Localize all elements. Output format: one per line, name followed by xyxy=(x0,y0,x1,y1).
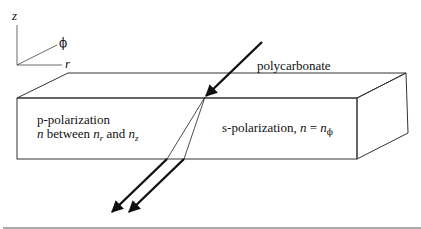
material-label: polycarbonate xyxy=(257,59,331,73)
s-polarization-prefix: s-polarization, xyxy=(222,120,300,135)
phi-axis-label: ϕ xyxy=(59,36,67,50)
equals-sign: = xyxy=(306,120,320,135)
r-axis-label: r xyxy=(65,57,70,71)
s-refracted-beam xyxy=(184,97,205,159)
phi-subscript: ϕ xyxy=(327,127,333,137)
incident-beam-arrow xyxy=(206,42,262,96)
p-refracted-beam xyxy=(167,97,205,159)
p-polarization-index: n between nr and nz xyxy=(37,127,139,141)
p-polarization-label: p-polarization n between nr and nz xyxy=(37,113,139,141)
z-subscript: z xyxy=(135,133,139,143)
s-polarization-label: s-polarization, n = nϕ xyxy=(222,121,333,135)
and-text: and xyxy=(103,126,128,141)
refracted-beams xyxy=(167,97,205,159)
slab-side-face xyxy=(357,73,408,159)
slab-top-face xyxy=(17,73,406,98)
z-axis-label: z xyxy=(12,9,17,23)
coordinate-axes xyxy=(17,25,62,65)
between-text: between xyxy=(44,126,94,141)
p-exit-beam-arrow xyxy=(112,159,167,212)
s-exit-beam-arrow xyxy=(129,159,184,212)
p-polarization-title: p-polarization xyxy=(37,113,139,127)
phi-axis xyxy=(17,45,57,65)
